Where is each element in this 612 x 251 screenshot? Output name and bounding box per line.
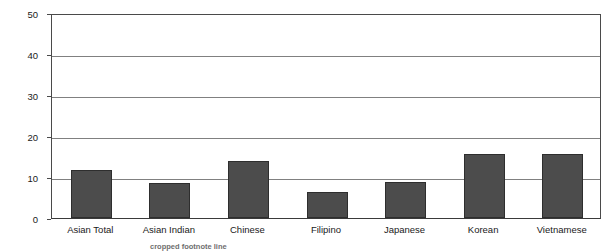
caption-text: cropped footnote line [150,243,227,251]
y-tick-label: 50 [27,9,38,20]
bar-chinese [228,161,269,218]
x-label-asian-indian: Asian Indian [130,224,209,235]
bar-vietnamese [542,154,583,218]
caption-strip: cropped footnote line [0,243,612,251]
y-tick-label: 10 [27,173,38,184]
x-label-japanese: Japanese [365,224,444,235]
gridline-40 [52,56,600,57]
bar-korean [464,154,505,218]
bar-japanese [385,182,426,218]
y-tick-label: 20 [27,132,38,143]
y-tick-label: 30 [27,91,38,102]
bar-chart-figure: Percent below poverty 01020304050 Asian … [0,0,612,251]
x-label-korean: Korean [444,224,523,235]
plot-area [51,14,601,219]
y-tick-label: 0 [33,214,38,225]
bar-asian-indian [149,183,190,218]
x-label-asian-total: Asian Total [51,224,130,235]
gridline-10 [52,179,600,180]
bar-asian-total [71,170,112,218]
gridline-30 [52,97,600,98]
bar-filipino [307,192,348,218]
x-label-chinese: Chinese [208,224,287,235]
x-label-vietnamese: Vietnamese [522,224,601,235]
y-tick-label: 40 [27,50,38,61]
x-label-filipino: Filipino [287,224,366,235]
gridline-20 [52,138,600,139]
y-tick-mark [47,219,51,220]
